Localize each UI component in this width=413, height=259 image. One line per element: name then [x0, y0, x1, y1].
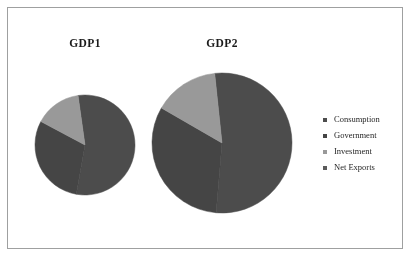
pie-chart-gdp2: GDP2 — [151, 56, 293, 198]
legend-item-investment: Investment — [322, 145, 408, 158]
chart-legend: Consumption Government Investment Net Ex… — [322, 113, 408, 177]
pie-svg-gdp1 — [33, 93, 137, 197]
legend-item-government: Government — [322, 129, 408, 142]
legend-swatch-icon — [323, 118, 327, 122]
plot-area: GDP1 GDP2 Consumption Government Investm… — [0, 0, 413, 259]
legend-swatch-icon — [323, 150, 327, 154]
legend-label: Net Exports — [334, 163, 375, 172]
pie-title-gdp2: GDP2 — [151, 37, 293, 49]
pie-svg-gdp2 — [151, 72, 293, 214]
legend-item-consumption: Consumption — [322, 113, 408, 126]
pie-slice — [215, 73, 292, 213]
legend-label: Investment — [334, 147, 372, 156]
legend-swatch-icon — [323, 134, 327, 138]
pie-title-gdp1: GDP1 — [33, 37, 137, 49]
legend-item-net-exports: Net Exports — [322, 161, 408, 174]
legend-label: Government — [334, 131, 377, 140]
legend-swatch-icon — [323, 166, 327, 170]
legend-label: Consumption — [334, 115, 380, 124]
figure-canvas: GDP1 GDP2 Consumption Government Investm… — [0, 0, 413, 259]
pie-chart-gdp1: GDP1 — [33, 56, 137, 160]
